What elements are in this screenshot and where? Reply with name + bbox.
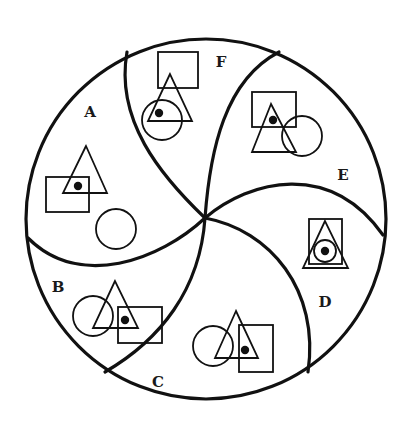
triangle-shape	[252, 104, 296, 152]
regions: ABCDEF	[46, 52, 349, 391]
square-shape	[309, 219, 342, 264]
region-d: D	[303, 219, 348, 311]
dot-marker	[241, 346, 249, 354]
region-label: B	[52, 278, 65, 296]
square-shape	[118, 307, 162, 343]
circle-shape	[193, 326, 233, 366]
divider-top-right	[205, 52, 279, 218]
diagram-canvas: ABCDEF	[0, 0, 408, 434]
divider-bottom-left	[105, 218, 205, 372]
circle-shape	[73, 296, 113, 336]
region-f: F	[142, 52, 227, 140]
region-label: A	[83, 103, 96, 121]
region-a: A	[46, 103, 136, 249]
dot-marker	[121, 316, 129, 324]
divider-left	[28, 218, 205, 266]
dot-marker	[74, 182, 82, 190]
region-c: C	[152, 311, 273, 391]
triangle-shape	[93, 281, 138, 328]
triangle-shape	[215, 311, 258, 358]
region-label: F	[216, 53, 227, 71]
dot-marker	[155, 109, 163, 117]
pinwheel-diagram: ABCDEF	[0, 0, 408, 434]
region-label: C	[152, 373, 164, 391]
triangle-shape	[148, 74, 192, 121]
region-e: E	[252, 92, 349, 184]
circle-shape	[96, 209, 136, 249]
divider-bottom-right	[205, 218, 310, 372]
dot-marker	[321, 247, 329, 255]
triangle-shape	[63, 146, 107, 193]
dot-marker	[269, 116, 277, 124]
region-label: D	[318, 293, 331, 311]
region-label: E	[337, 166, 348, 184]
square-shape	[158, 52, 198, 88]
divider-top-left	[125, 52, 205, 218]
